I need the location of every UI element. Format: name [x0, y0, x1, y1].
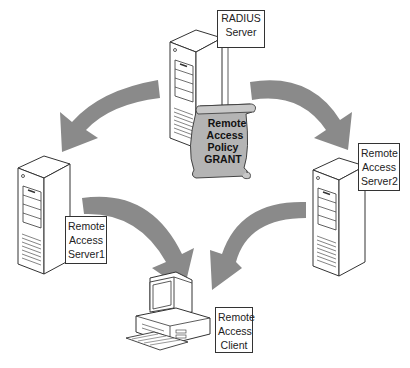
label-line: Remote	[218, 311, 250, 323]
remote-access-server1-icon	[18, 156, 70, 274]
label-line: Access	[361, 161, 397, 173]
label-line: Remote	[361, 147, 397, 159]
remote-access-server1-label: Remote Access Server1	[65, 216, 107, 264]
label-line: RADIUS	[220, 12, 262, 24]
radius-server-label: RADIUS Server	[217, 10, 265, 48]
label-line: Access	[218, 325, 250, 337]
arrow-ras2-to-client	[210, 202, 306, 290]
arrow-radius-to-ras1	[60, 80, 160, 152]
label-line: Server1	[68, 248, 104, 260]
label-line: Client	[218, 339, 250, 351]
diagram-canvas	[0, 0, 410, 368]
scroll-line: Policy	[196, 141, 250, 153]
remote-access-client-label: Remote Access Client	[215, 307, 253, 353]
remote-access-server2-label: Remote Access Server2	[358, 143, 400, 191]
label-line: Remote	[68, 220, 104, 232]
scroll-line: Remote	[196, 117, 250, 129]
label-line: Access	[68, 234, 104, 246]
scroll-line: Access	[196, 129, 250, 141]
label-line: Server2	[361, 175, 397, 187]
remote-access-client-icon	[126, 272, 210, 350]
label-line: Server	[220, 26, 262, 38]
scroll-line: GRANT	[196, 153, 250, 165]
policy-scroll-text: Remote Access Policy GRANT	[196, 117, 250, 165]
arrow-radius-to-ras2	[250, 80, 352, 150]
